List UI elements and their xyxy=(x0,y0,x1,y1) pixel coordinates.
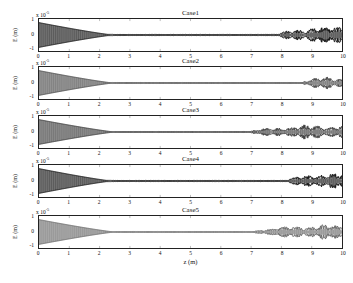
y-axis-multiplier: x 10-5 xyxy=(36,58,49,66)
y-multiplier-exponent: -5 xyxy=(46,207,50,212)
x-tick-label: 8 xyxy=(281,250,284,256)
y-multiplier-exponent: -5 xyxy=(46,58,50,63)
plot-area xyxy=(38,18,343,52)
y-multiplier-prefix: x 10 xyxy=(36,209,46,215)
subplot-3: Case3x 10-5E (m)10-1012345678910 xyxy=(0,105,353,161)
y-tick-label: 1 xyxy=(4,163,34,169)
x-tick-label: 1 xyxy=(67,250,70,256)
signal-trace xyxy=(39,19,342,51)
signal-trace xyxy=(39,165,342,197)
subplot-title: Case4 xyxy=(38,154,343,164)
y-multiplier-exponent: -5 xyxy=(46,10,50,15)
y-tick-labels: 10-1 xyxy=(0,215,34,249)
y-tick-label: 0 xyxy=(4,178,34,184)
y-tick-labels: 10-1 xyxy=(0,115,34,149)
y-axis-multiplier: x 10-5 xyxy=(36,207,49,215)
y-tick-label: -1 xyxy=(4,94,34,100)
x-tick-label: 0 xyxy=(37,250,40,256)
y-axis-multiplier: x 10-5 xyxy=(36,156,49,164)
y-tick-label: 0 xyxy=(4,32,34,38)
y-tick-label: 1 xyxy=(4,17,34,23)
y-tick-label: -1 xyxy=(4,243,34,249)
plot-area xyxy=(38,66,343,100)
y-axis-multiplier: x 10-5 xyxy=(36,10,49,18)
plot-area xyxy=(38,115,343,149)
x-axis-label: z (m) xyxy=(38,258,343,265)
y-tick-label: 0 xyxy=(4,80,34,86)
x-tick-label: 4 xyxy=(159,250,162,256)
y-tick-label: 1 xyxy=(4,114,34,120)
signal-trace xyxy=(39,116,342,148)
y-multiplier-prefix: x 10 xyxy=(36,12,46,18)
y-tick-label: -1 xyxy=(4,192,34,198)
x-tick-label: 10 xyxy=(340,250,346,256)
signal-trace xyxy=(39,67,342,99)
y-tick-labels: 10-1 xyxy=(0,66,34,100)
y-multiplier-prefix: x 10 xyxy=(36,109,46,115)
subplot-2: Case2x 10-5E (m)10-1012345678910 xyxy=(0,56,353,112)
y-tick-labels: 10-1 xyxy=(0,18,34,52)
x-tick-label: 7 xyxy=(250,250,253,256)
x-tick-label: 2 xyxy=(98,250,101,256)
x-tick-label: 3 xyxy=(128,250,131,256)
y-tick-label: 0 xyxy=(4,129,34,135)
subplot-title: Case2 xyxy=(38,56,343,66)
x-tick-label: 6 xyxy=(220,250,223,256)
figure-canvas: Case1x 10-5E (m)10-1012345678910Case2x 1… xyxy=(0,0,353,283)
y-tick-label: 1 xyxy=(4,65,34,71)
x-tick-label: 9 xyxy=(311,250,314,256)
subplot-title: Case3 xyxy=(38,105,343,115)
y-multiplier-exponent: -5 xyxy=(46,156,50,161)
y-tick-label: -1 xyxy=(4,46,34,52)
plot-area xyxy=(38,215,343,249)
y-tick-label: 0 xyxy=(4,229,34,235)
y-multiplier-exponent: -5 xyxy=(46,107,50,112)
y-multiplier-prefix: x 10 xyxy=(36,158,46,164)
signal-trace xyxy=(39,216,342,248)
subplot-title: Case1 xyxy=(38,8,343,18)
y-multiplier-prefix: x 10 xyxy=(36,60,46,66)
y-tick-label: -1 xyxy=(4,143,34,149)
y-tick-label: 1 xyxy=(4,214,34,220)
x-tick-label: 5 xyxy=(189,250,192,256)
y-axis-multiplier: x 10-5 xyxy=(36,107,49,115)
subplot-title: Case5 xyxy=(38,205,343,215)
plot-area xyxy=(38,164,343,198)
subplot-4: Case4x 10-5E (m)10-1012345678910 xyxy=(0,154,353,210)
subplot-5: Case5x 10-5E (m)10-1012345678910z (m) xyxy=(0,205,353,261)
y-tick-labels: 10-1 xyxy=(0,164,34,198)
